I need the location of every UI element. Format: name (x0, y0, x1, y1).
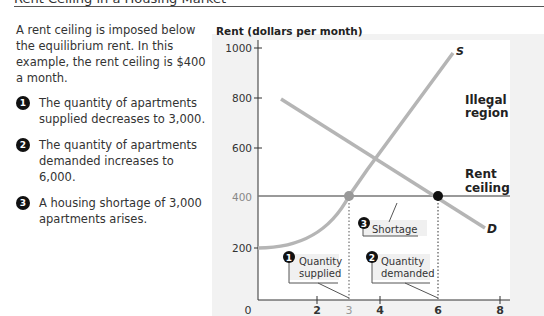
svg-text:0: 0 (245, 304, 252, 316)
svg-text:supplied: supplied (299, 268, 341, 279)
svg-text:1000: 1000 (225, 42, 252, 54)
svg-text:1: 1 (286, 253, 292, 263)
illegal-region-label-2: region (465, 106, 509, 120)
quantity-demanded-point (433, 191, 443, 201)
svg-text:400: 400 (232, 191, 252, 203)
quantity-supplied-point (344, 191, 354, 201)
rent-ceiling-label-2: ceiling (465, 181, 510, 195)
rent-ceiling-chart: Rent (dollars per month) 1000 800 600 40… (0, 0, 544, 316)
y-ticks: 1000 800 600 400 200 (225, 42, 262, 254)
svg-text:Quantity: Quantity (299, 256, 342, 267)
svg-text:3: 3 (346, 304, 353, 316)
rent-ceiling-label: Rent (465, 167, 497, 181)
svg-text:Quantity: Quantity (381, 256, 424, 267)
demand-label: D (487, 222, 497, 236)
svg-text:4: 4 (376, 304, 384, 316)
svg-text:800: 800 (232, 92, 252, 104)
svg-text:8: 8 (496, 304, 504, 316)
svg-text:2: 2 (313, 304, 321, 316)
svg-text:600: 600 (232, 142, 252, 154)
svg-text:6: 6 (434, 304, 442, 316)
y-axis-label: Rent (dollars per month) (216, 25, 363, 37)
svg-text:2: 2 (369, 253, 375, 263)
supply-label: S (456, 45, 464, 58)
svg-text:demanded: demanded (381, 268, 435, 279)
svg-text:200: 200 (232, 242, 252, 254)
illegal-region-label: Illegal (465, 93, 507, 107)
svg-text:3: 3 (361, 219, 367, 229)
svg-text:Shortage: Shortage (372, 224, 417, 235)
